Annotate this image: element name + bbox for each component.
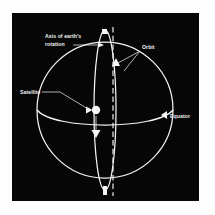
diagram-panel: Axis of earth's rotation Orbit Satellite… (12, 13, 199, 201)
satellite-label: Satellite (20, 89, 40, 95)
figure-root: Axis of earth's rotation Orbit Satellite… (0, 0, 215, 215)
downward-travel-arrow (92, 130, 101, 138)
satellite-leader-arrowhead (86, 107, 93, 114)
earth-sphere-outline (37, 42, 173, 178)
south-pole-marker (103, 186, 107, 195)
equator-label: Equator (170, 113, 190, 119)
axis-label-line1: Axis of earth's (45, 33, 81, 39)
satellite-label-leader-diagonal (60, 92, 88, 109)
satellite-body (92, 106, 100, 114)
equator-front-arc (37, 110, 173, 125)
orbit-diagram-svg: Axis of earth's rotation Orbit Satellite… (12, 13, 199, 201)
orbit-label-leader (118, 51, 140, 63)
orbit-label: Orbit (142, 44, 155, 50)
axis-label-arrowhead (98, 43, 104, 48)
axis-label-line2: rotation (45, 41, 65, 47)
orbit-label-leader-secondary (124, 51, 140, 71)
